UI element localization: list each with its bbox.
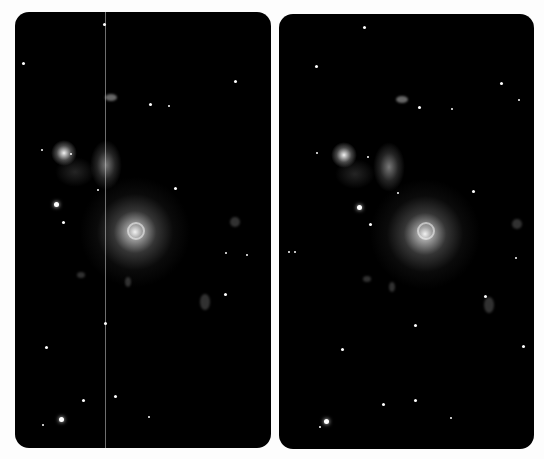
nebula-clump bbox=[373, 142, 405, 192]
artifact-line bbox=[105, 12, 106, 448]
nebula-clump bbox=[90, 140, 122, 190]
astro-image-right bbox=[279, 14, 534, 449]
astro-image-left bbox=[15, 12, 271, 448]
